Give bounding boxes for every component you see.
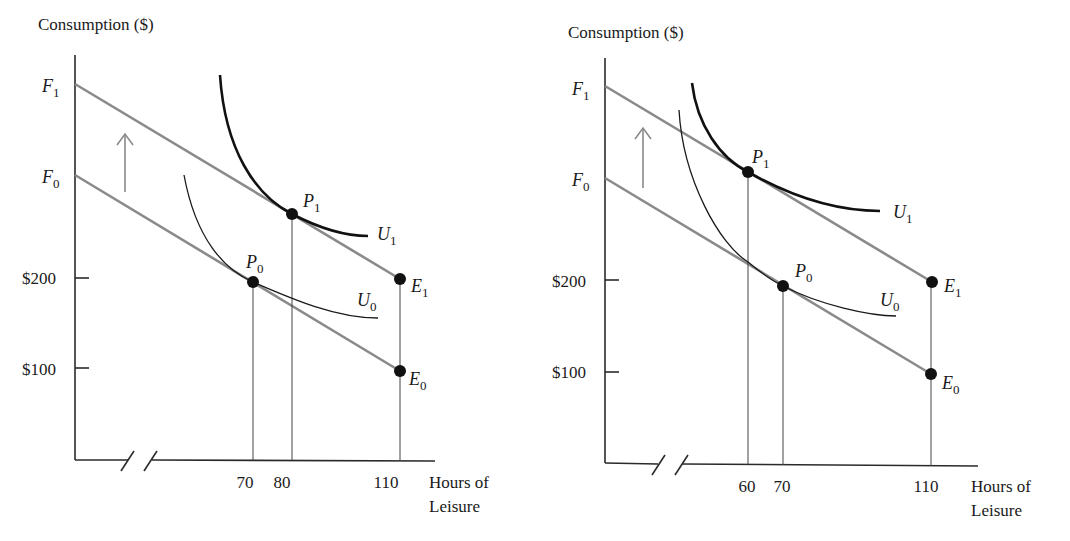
left-x-axis-label-line2: Leisure <box>429 497 480 516</box>
right-x-axis-label-line1: Hours of <box>971 477 1031 496</box>
left-label-U0: U0 <box>357 290 377 314</box>
right-label-F1: F1 <box>571 79 590 103</box>
right-ytick-200-label: $200 <box>552 272 586 291</box>
left-label-E0: E0 <box>408 369 427 393</box>
right-indifference-curve-U1 <box>692 83 880 211</box>
left-x-axis-segment-2 <box>152 460 435 461</box>
right-point-E1 <box>926 276 938 288</box>
right-label-U1: U1 <box>893 202 913 226</box>
left-label-P1: P1 <box>302 191 321 215</box>
right-axis-break-mark-2 <box>675 455 688 475</box>
left-panel: Consumption ($) $200 $100 70 80 110 Hour… <box>22 15 489 516</box>
right-label-U0: U0 <box>880 290 900 314</box>
right-label-E0: E0 <box>941 373 960 397</box>
right-xtick-60: 60 <box>739 477 756 496</box>
left-axis-break-mark-1 <box>121 451 134 471</box>
left-y-axis-label: Consumption ($) <box>38 15 154 34</box>
left-axis-break-mark-2 <box>144 451 157 471</box>
left-budget-line-F1-E1 <box>75 84 400 279</box>
right-xtick-110: 110 <box>914 477 939 496</box>
right-point-P1 <box>742 166 754 178</box>
right-x-axis-segment-1 <box>605 463 658 464</box>
right-label-F0: F0 <box>571 170 590 194</box>
right-x-axis-label-line2: Leisure <box>971 501 1022 520</box>
right-xtick-70: 70 <box>774 477 791 496</box>
right-axis-break-mark-1 <box>652 455 665 475</box>
right-point-P0 <box>777 280 789 292</box>
left-label-F1: F1 <box>41 76 60 100</box>
left-xtick-80: 80 <box>274 473 291 492</box>
right-label-P1: P1 <box>751 147 770 171</box>
right-label-P0: P0 <box>794 261 813 285</box>
left-point-E1 <box>394 273 406 285</box>
left-ytick-200-label: $200 <box>22 269 56 288</box>
right-point-E0 <box>925 368 937 380</box>
left-point-E0 <box>394 365 406 377</box>
left-label-U1: U1 <box>377 224 397 248</box>
right-label-E1: E1 <box>943 276 962 300</box>
left-label-F0: F0 <box>41 167 60 191</box>
left-label-E1: E1 <box>410 276 429 300</box>
left-ytick-100-label: $100 <box>22 360 56 379</box>
left-point-P1 <box>286 208 298 220</box>
right-ytick-100-label: $100 <box>552 363 586 382</box>
right-y-axis-label: Consumption ($) <box>568 23 684 42</box>
left-xtick-70: 70 <box>237 473 254 492</box>
left-x-axis-label-line1: Hours of <box>429 473 489 492</box>
left-label-P0: P0 <box>245 252 264 276</box>
right-panel: Consumption ($) $200 $100 60 70 110 Hour… <box>552 23 1031 520</box>
right-budget-line-F0-E0 <box>605 178 931 374</box>
left-xtick-110: 110 <box>374 473 399 492</box>
right-x-axis-segment-2 <box>682 464 978 466</box>
left-point-P0 <box>247 276 259 288</box>
left-indifference-curve-U0 <box>184 175 378 318</box>
figure: Consumption ($) $200 $100 70 80 110 Hour… <box>0 0 1070 541</box>
